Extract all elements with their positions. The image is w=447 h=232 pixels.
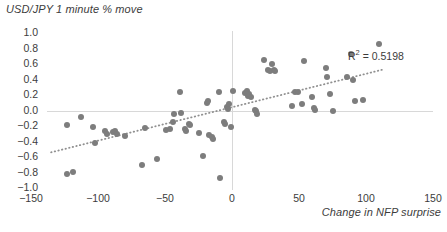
y-tick-label: −0.2	[8, 119, 38, 131]
data-point	[122, 133, 128, 139]
data-point	[309, 94, 315, 100]
y-tick-label: 0.8	[8, 42, 38, 54]
data-point	[114, 131, 120, 137]
data-point	[142, 125, 148, 131]
y-tick-label: −0.4	[8, 135, 38, 147]
x-tick-label: −150	[11, 192, 51, 204]
data-point	[327, 91, 333, 97]
data-point	[200, 153, 206, 159]
data-point	[299, 101, 305, 107]
data-point	[350, 77, 356, 83]
data-point	[216, 89, 222, 95]
data-point	[312, 107, 318, 113]
x-tick-label: 150	[413, 192, 447, 204]
data-point	[139, 162, 145, 168]
data-point	[217, 175, 223, 181]
x-tick-label: 0	[212, 192, 252, 204]
data-point	[225, 106, 231, 112]
y-tick-label: 1.0	[8, 26, 38, 38]
x-tick-label: 50	[279, 192, 319, 204]
data-point	[360, 97, 366, 103]
y-tick-label: −0.6	[8, 150, 38, 162]
data-point	[330, 108, 336, 114]
y-tick-label: 0.4	[8, 73, 38, 85]
data-point	[70, 169, 76, 175]
data-point	[295, 89, 301, 95]
data-point	[228, 124, 234, 130]
y-tick-label: 0.0	[8, 104, 38, 116]
data-point	[272, 68, 278, 74]
r-squared-annotation: R2 = 0.5198	[348, 48, 404, 62]
x-tick-label: −100	[78, 192, 118, 204]
data-point	[323, 65, 329, 71]
y-tick-label: 0.6	[8, 57, 38, 69]
x-tick-label: −50	[145, 192, 185, 204]
data-point	[178, 110, 184, 116]
y-tick-label: 0.2	[8, 88, 38, 100]
scatter-chart: USD/JPY 1 minute % move Change in NFP su…	[0, 0, 447, 232]
x-tick-label: 100	[346, 192, 386, 204]
data-point	[177, 89, 183, 95]
data-point	[90, 124, 96, 130]
data-point	[196, 130, 202, 136]
data-point	[226, 101, 232, 107]
y-tick-label: −0.8	[8, 166, 38, 178]
